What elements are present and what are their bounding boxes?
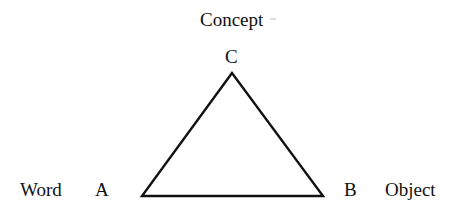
vertex-c-letter: C bbox=[225, 47, 238, 66]
word-label: Word bbox=[20, 180, 62, 199]
vertex-b-letter: B bbox=[344, 180, 357, 199]
object-label: Object bbox=[385, 180, 436, 199]
concept-label: Concept bbox=[200, 10, 263, 29]
vertex-a-letter: A bbox=[95, 180, 109, 199]
